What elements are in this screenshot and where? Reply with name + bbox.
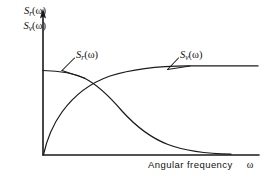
y-axis-label: Sr(ω) Sv(ω) [6,4,46,33]
curve-label-sr: Sr(ω) [76,50,98,61]
x-axis-label-omega: ω [247,160,254,170]
y-axis-label-argument-2: (ω) [32,20,46,31]
y-axis-label-line-2: Sv(ω) [6,19,46,34]
leader-pointer-sr [62,71,85,79]
curve-label-sr-argument: (ω) [84,49,98,60]
curve-label-sv: Sv(ω) [180,50,203,61]
curve-sr [43,71,231,155]
spectral-density-figure: Sr(ω) Sv(ω) Sr(ω) Sv(ω) Angular frequenc… [0,0,275,179]
curve-label-sv-argument: (ω) [189,49,203,60]
x-axis-label: Angular frequencyω [148,160,254,170]
leader-line-sr [62,58,75,71]
y-axis-label-line-1: Sr(ω) [6,4,46,19]
curve-sv [44,66,259,155]
y-axis-label-argument-1: (ω) [32,5,46,16]
x-axis-label-text: Angular frequency [148,159,233,170]
